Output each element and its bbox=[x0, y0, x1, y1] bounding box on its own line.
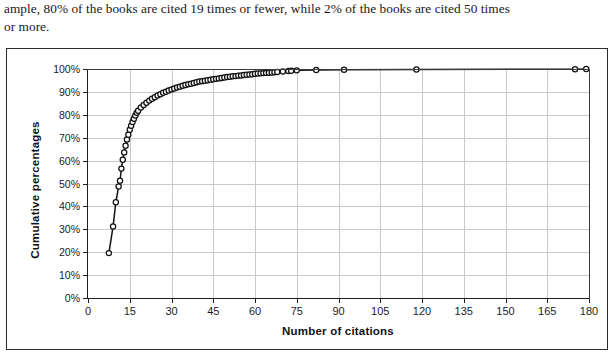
data-point-marker bbox=[119, 166, 124, 171]
y-axis-tick bbox=[83, 206, 88, 207]
x-axis-tick bbox=[130, 298, 131, 303]
data-point-marker bbox=[141, 102, 146, 107]
gridline-vertical bbox=[506, 69, 507, 298]
data-point-marker bbox=[122, 150, 127, 155]
data-point-marker bbox=[202, 78, 207, 83]
gridline-vertical bbox=[255, 69, 256, 298]
data-point-marker bbox=[272, 70, 277, 75]
y-axis-tick-label: 0% bbox=[65, 292, 80, 304]
gridline-vertical bbox=[130, 69, 131, 298]
x-axis-tick bbox=[464, 298, 465, 303]
data-point-marker bbox=[131, 116, 136, 121]
y-axis-tick-label: 80% bbox=[59, 109, 80, 121]
x-axis-tick bbox=[172, 298, 173, 303]
y-axis-tick bbox=[83, 184, 88, 185]
gridline-vertical bbox=[464, 69, 465, 298]
y-axis-tick bbox=[83, 161, 88, 162]
data-point-marker bbox=[219, 75, 224, 80]
data-point-marker bbox=[236, 73, 241, 78]
y-axis-tick bbox=[83, 275, 88, 276]
data-point-marker bbox=[177, 84, 182, 89]
x-axis-tick bbox=[506, 298, 507, 303]
y-axis-tick bbox=[83, 252, 88, 253]
data-point-marker bbox=[241, 72, 246, 77]
x-axis-tick-label: 15 bbox=[124, 305, 136, 317]
data-point-marker bbox=[261, 71, 266, 76]
x-axis-tick bbox=[422, 298, 423, 303]
plot-frame-top-edge bbox=[87, 69, 589, 70]
data-point-marker bbox=[266, 70, 271, 75]
data-point-marker bbox=[230, 74, 235, 79]
plot-area: 0%10%20%30%40%50%60%70%80%90%100% 015304… bbox=[87, 69, 589, 299]
gridline-vertical bbox=[422, 69, 423, 298]
data-point-marker bbox=[247, 72, 252, 77]
y-axis-tick bbox=[83, 229, 88, 230]
x-axis-tick-label: 45 bbox=[207, 305, 219, 317]
data-point-marker bbox=[275, 69, 280, 74]
x-axis-tick-label: 60 bbox=[249, 305, 261, 317]
data-point-marker bbox=[123, 143, 128, 148]
y-axis-tick bbox=[83, 138, 88, 139]
data-point-marker bbox=[188, 81, 193, 86]
chart-figure: 0%10%20%30%40%50%60%70%80%90%100% 015304… bbox=[6, 48, 608, 350]
data-point-marker bbox=[205, 78, 210, 83]
data-point-marker bbox=[244, 72, 249, 77]
gridline-vertical bbox=[297, 69, 298, 298]
y-axis-tick bbox=[83, 115, 88, 116]
y-axis-tick-label: 40% bbox=[59, 200, 80, 212]
data-point-marker bbox=[191, 80, 196, 85]
data-point-marker bbox=[216, 76, 221, 81]
x-axis-tick bbox=[297, 298, 298, 303]
data-point-marker bbox=[149, 96, 154, 101]
data-point-marker bbox=[147, 98, 152, 103]
data-point-marker bbox=[264, 70, 269, 75]
x-axis-tick-label: 120 bbox=[413, 305, 431, 317]
y-axis-tick-label: 20% bbox=[59, 246, 80, 258]
data-point-marker bbox=[222, 75, 227, 80]
data-point-marker bbox=[194, 80, 199, 85]
data-point-marker bbox=[200, 79, 205, 84]
data-point-marker bbox=[152, 95, 157, 100]
data-point-marker bbox=[180, 83, 185, 88]
data-point-marker bbox=[186, 82, 191, 87]
data-point-marker bbox=[174, 85, 179, 90]
data-point-marker bbox=[197, 79, 202, 84]
data-point-marker bbox=[183, 82, 188, 87]
data-point-marker bbox=[116, 184, 121, 189]
data-point-marker bbox=[269, 70, 274, 75]
data-point-marker bbox=[233, 74, 238, 79]
data-point-marker bbox=[155, 93, 160, 98]
data-point-marker bbox=[138, 105, 143, 110]
y-axis-tick bbox=[83, 92, 88, 93]
x-axis-tick-label: 105 bbox=[371, 305, 389, 317]
x-axis-tick-label: 75 bbox=[291, 305, 303, 317]
x-axis-tick bbox=[88, 298, 89, 303]
gridline-vertical bbox=[547, 69, 548, 298]
body-text-line-2: or more. bbox=[4, 18, 611, 36]
gridline-vertical bbox=[172, 69, 173, 298]
data-point-marker bbox=[238, 73, 243, 78]
x-axis-title: Number of citations bbox=[87, 325, 589, 337]
y-axis-tick-label: 100% bbox=[53, 63, 80, 75]
y-axis-tick-label: 10% bbox=[59, 269, 80, 281]
y-axis-tick-label: 60% bbox=[59, 155, 80, 167]
y-axis-tick-label: 50% bbox=[59, 178, 80, 190]
data-point-marker bbox=[258, 71, 263, 76]
x-axis-tick-label: 180 bbox=[580, 305, 598, 317]
x-axis-tick-label: 30 bbox=[165, 305, 177, 317]
data-point-marker bbox=[113, 200, 118, 205]
gridline-vertical bbox=[213, 69, 214, 298]
chart-figure-inner: 0%10%20%30%40%50%60%70%80%90%100% 015304… bbox=[7, 49, 607, 349]
y-axis-title: Cumulative percentages bbox=[29, 100, 41, 280]
data-point-marker bbox=[227, 74, 232, 79]
y-axis-tick-label: 30% bbox=[59, 223, 80, 235]
body-text: ample, 80% of the books are cited 19 tim… bbox=[4, 0, 611, 35]
data-point-marker bbox=[225, 74, 230, 79]
x-axis-tick bbox=[213, 298, 214, 303]
data-point-marker bbox=[144, 100, 149, 105]
x-axis-tick bbox=[380, 298, 381, 303]
body-text-line-1: ample, 80% of the books are cited 19 tim… bbox=[4, 0, 611, 18]
y-axis-tick-label: 70% bbox=[59, 132, 80, 144]
y-axis-tick-label: 90% bbox=[59, 86, 80, 98]
x-axis-tick-label: 0 bbox=[85, 305, 91, 317]
